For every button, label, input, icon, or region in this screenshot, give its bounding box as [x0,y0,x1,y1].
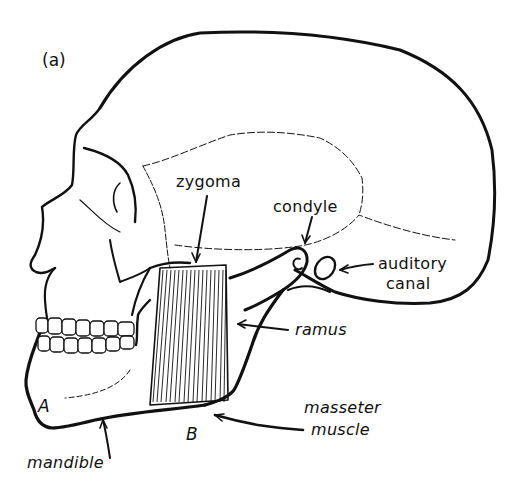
suture-coronal [143,166,170,268]
label-point-a: A [38,398,50,415]
auditory-canal-opening [311,253,340,283]
panel-label: (a) [42,52,66,69]
suture-squamous [175,215,455,250]
label-mandible: mandible [27,455,104,471]
mylohyoid-line [65,370,130,398]
label-auditory: auditory [378,256,447,272]
label-masseter: masseter [304,400,381,416]
face-profile [31,108,100,273]
condyle-mark [293,259,302,270]
label-condyle: condyle [273,199,338,215]
label-ramus: ramus [295,322,347,338]
skull-drawing [0,0,517,483]
label-point-b: B [186,426,198,443]
masseter-fibers [153,270,226,402]
teeth [36,318,134,353]
label-canal: canal [386,276,431,292]
skull-diagram: (a) zygoma condyle auditory canal ramus … [0,0,517,483]
label-muscle: muscle [311,422,370,438]
label-zygoma: zygoma [176,174,241,190]
